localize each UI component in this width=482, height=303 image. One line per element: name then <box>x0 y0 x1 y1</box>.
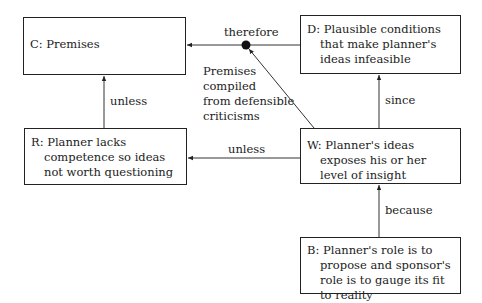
premises-note-4: criticisms <box>203 109 260 124</box>
premises-note-2: compiled <box>203 79 256 94</box>
premises-note-3: from defensible <box>203 94 294 109</box>
warrant-box: W: Planner's ideas exposes his or her le… <box>300 128 461 184</box>
therefore-label: therefore <box>224 25 279 40</box>
claim-box: C: Premises <box>23 17 186 75</box>
because-label: because <box>385 203 433 218</box>
rebuttal-box: R: Planner lacks competence so ideas not… <box>24 128 187 185</box>
backing-text: B: Planner's role is to propose and spon… <box>307 243 456 303</box>
data-box: D: Plausible conditions that make planne… <box>300 15 461 74</box>
premises-note-1: Premises <box>203 64 256 79</box>
rebuttal-text: R: Planner lacks competence so ideas not… <box>31 135 182 180</box>
claim-text: C: Premises <box>30 37 181 52</box>
unless-label-w: unless <box>228 142 265 157</box>
since-label: since <box>385 93 415 108</box>
junction-dot <box>242 41 251 50</box>
unless-label-c: unless <box>110 94 147 109</box>
backing-box: B: Planner's role is to propose and spon… <box>300 237 461 294</box>
data-text: D: Plausible conditions that make planne… <box>307 22 456 67</box>
warrant-text: W: Planner's ideas exposes his or her le… <box>307 138 456 183</box>
